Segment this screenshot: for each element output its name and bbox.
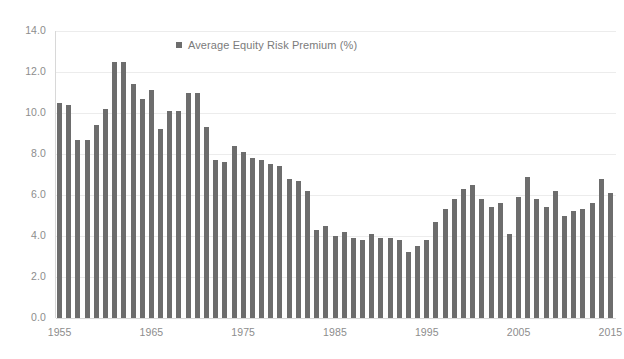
bar <box>562 216 567 319</box>
bar <box>489 207 494 318</box>
bar <box>250 158 255 318</box>
bar <box>314 230 319 318</box>
x-axis-tick-label: 1965 <box>121 326 181 338</box>
bar <box>378 238 383 318</box>
bar <box>461 189 466 318</box>
bar <box>94 125 99 318</box>
bar <box>599 179 604 318</box>
bar <box>351 238 356 318</box>
bar <box>176 111 181 318</box>
x-axis-tick-label: 1975 <box>213 326 273 338</box>
bar <box>268 164 273 318</box>
bar <box>204 127 209 318</box>
bar <box>103 109 108 318</box>
bar <box>590 203 595 318</box>
bar <box>360 240 365 318</box>
y-axis-tick-label: 0.0 <box>2 311 46 323</box>
bar <box>608 193 613 318</box>
bar <box>232 146 237 318</box>
bar <box>195 93 200 319</box>
bar <box>452 199 457 318</box>
bar <box>580 209 585 318</box>
bar <box>112 62 117 318</box>
bar <box>507 234 512 318</box>
x-axis-tick-label: 1995 <box>397 326 457 338</box>
legend-swatch-icon <box>176 42 182 48</box>
bar <box>479 199 484 318</box>
bar <box>516 197 521 318</box>
bar <box>553 191 558 318</box>
bar <box>470 185 475 318</box>
bar <box>342 232 347 318</box>
chart-legend: Average Equity Risk Premium (%) <box>176 39 357 51</box>
x-axis-tick-label: 1985 <box>305 326 365 338</box>
y-axis-tick-label: 10.0 <box>2 106 46 118</box>
bar <box>85 140 90 318</box>
x-axis-tick-label: 1955 <box>30 326 90 338</box>
y-axis-tick-label: 6.0 <box>2 188 46 200</box>
bar <box>167 111 172 318</box>
bar <box>433 222 438 318</box>
bar <box>287 179 292 318</box>
y-axis-tick-label: 4.0 <box>2 229 46 241</box>
bar <box>534 199 539 318</box>
bar <box>140 99 145 318</box>
bar <box>424 240 429 318</box>
bar <box>121 62 126 318</box>
bar <box>498 203 503 318</box>
y-axis-tick-label: 14.0 <box>2 24 46 36</box>
bar <box>397 240 402 318</box>
bar <box>296 181 301 318</box>
bar <box>323 226 328 318</box>
bar <box>333 236 338 318</box>
bar <box>388 238 393 318</box>
bar <box>571 211 576 318</box>
bar <box>369 234 374 318</box>
x-axis-tick-label: 2005 <box>489 326 549 338</box>
bar <box>158 129 163 318</box>
bar <box>544 207 549 318</box>
y-axis-tick-label: 2.0 <box>2 270 46 282</box>
bar <box>277 166 282 318</box>
y-axis-tick-label: 12.0 <box>2 65 46 77</box>
bar <box>222 162 227 318</box>
bar <box>149 90 154 318</box>
bar <box>443 209 448 318</box>
bar-series <box>55 31 615 318</box>
bar <box>131 84 136 318</box>
bar <box>66 105 71 318</box>
bar <box>525 177 530 318</box>
bar <box>305 191 310 318</box>
y-axis-tick-label: 8.0 <box>2 147 46 159</box>
bar <box>415 246 420 318</box>
bar <box>241 152 246 318</box>
bar <box>259 160 264 318</box>
legend-label: Average Equity Risk Premium (%) <box>188 39 357 51</box>
bar <box>75 140 80 318</box>
bar <box>406 252 411 318</box>
equity-risk-premium-chart: 0.02.04.06.08.010.012.014.0 195519651975… <box>0 0 624 359</box>
bar <box>57 103 62 318</box>
gridline <box>56 318 616 319</box>
x-axis-tick-label: 2015 <box>580 326 624 338</box>
bar <box>213 160 218 318</box>
bar <box>186 93 191 319</box>
